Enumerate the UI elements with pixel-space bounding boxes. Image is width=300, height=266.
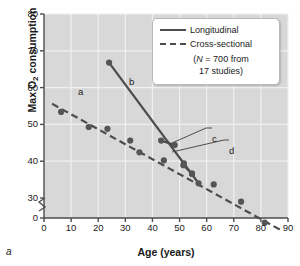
- legend-line-dashed-icon: [160, 39, 186, 49]
- legend-note-rest: = 700 from: [203, 54, 249, 64]
- y-axis-title-subscript: 2: [31, 76, 40, 80]
- data-point: [136, 149, 142, 155]
- y-axis-tick-label: 80: [12, 8, 38, 19]
- series-annotation-c: c: [212, 133, 217, 144]
- data-point: [211, 181, 217, 187]
- x-axis-tick-label: 50: [168, 222, 192, 233]
- series-annotation-b: b: [129, 76, 134, 87]
- legend-line-solid-icon: [160, 25, 186, 35]
- legend-sample-note: (N = 700 from 17 studies): [160, 53, 272, 77]
- legend-note-line2: 17 studies): [199, 66, 243, 76]
- data-point: [161, 157, 167, 163]
- x-axis-tick-label: 0: [32, 222, 56, 233]
- x-axis-tick-label: 30: [113, 222, 137, 233]
- x-axis-tick-label: 70: [222, 222, 246, 233]
- y-axis-tick-label: 70: [12, 45, 38, 56]
- y-axis-tick-label: 40: [12, 155, 38, 166]
- data-point: [180, 162, 186, 168]
- x-axis-tick-label: 60: [195, 222, 219, 233]
- data-point: [86, 124, 92, 130]
- panel-letter: a: [6, 246, 12, 257]
- series-annotation-d: d: [229, 145, 234, 156]
- y-axis-tick-label: 30: [12, 192, 38, 203]
- x-axis-tick-label: 40: [140, 222, 164, 233]
- series-annotation-a: a: [78, 86, 83, 97]
- legend-label-longitudinal: Longitudinal: [190, 25, 239, 35]
- chart-legend: Longitudinal Cross-sectional (N = 700 fr…: [152, 18, 280, 85]
- x-axis-tick-label: 20: [86, 222, 110, 233]
- x-axis-tick-label: 10: [59, 222, 83, 233]
- data-point: [195, 180, 201, 186]
- legend-label-cross-sectional: Cross-sectional: [190, 39, 252, 49]
- legend-item-cross-sectional: Cross-sectional: [160, 39, 272, 49]
- data-point: [158, 137, 164, 143]
- y-axis-tick-label: 50: [12, 118, 38, 129]
- x-axis-tick-label: 90: [276, 222, 300, 233]
- max-o2-consumption-chart: Max O2 consumption Age (years) a 0304050…: [0, 0, 300, 266]
- y-axis-tick-label: 60: [12, 82, 38, 93]
- data-point: [189, 171, 195, 177]
- x-axis-title: Age (years): [44, 246, 288, 258]
- data-point: [104, 126, 110, 132]
- legend-item-longitudinal: Longitudinal: [160, 25, 272, 35]
- data-point: [106, 59, 112, 65]
- x-axis-tick-label: 80: [249, 222, 273, 233]
- data-point: [58, 109, 64, 115]
- data-point: [127, 137, 133, 143]
- data-point: [238, 199, 244, 205]
